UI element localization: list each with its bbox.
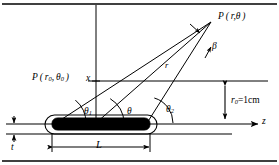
length-label: L <box>96 140 102 151</box>
r0-value: =1cm <box>238 95 260 105</box>
beta-angle-label: β <box>212 42 217 52</box>
stripline-patch <box>45 115 157 134</box>
theta-angle-label: θ <box>127 107 132 117</box>
r0-height-label: r0=1cm <box>231 96 260 106</box>
field-rays <box>56 22 211 123</box>
near-field-point-text-a: P ( r <box>32 72 48 82</box>
thickness-label: t <box>11 143 14 153</box>
diagram-canvas: P ( r,θ ) P ( r0, θ0 ) x z r β θ1 θ θ2 r… <box>0 0 279 165</box>
z-axis-label: z <box>262 117 266 127</box>
far-field-point-label: P ( r,θ ) <box>218 12 246 22</box>
theta1-subscript: 1 <box>89 109 92 116</box>
theta2-subscript: 2 <box>171 107 174 114</box>
radius-label: r <box>165 61 168 70</box>
near-field-point-text-b: , θ <box>52 72 61 82</box>
near-field-point-text-c: ) <box>64 72 69 82</box>
near-field-point-label: P ( r0, θ0 ) <box>32 73 69 83</box>
x-axis-label: x <box>86 74 90 84</box>
theta1-angle-label: θ1 <box>84 107 92 117</box>
theta2-angle-label: θ2 <box>166 105 174 115</box>
